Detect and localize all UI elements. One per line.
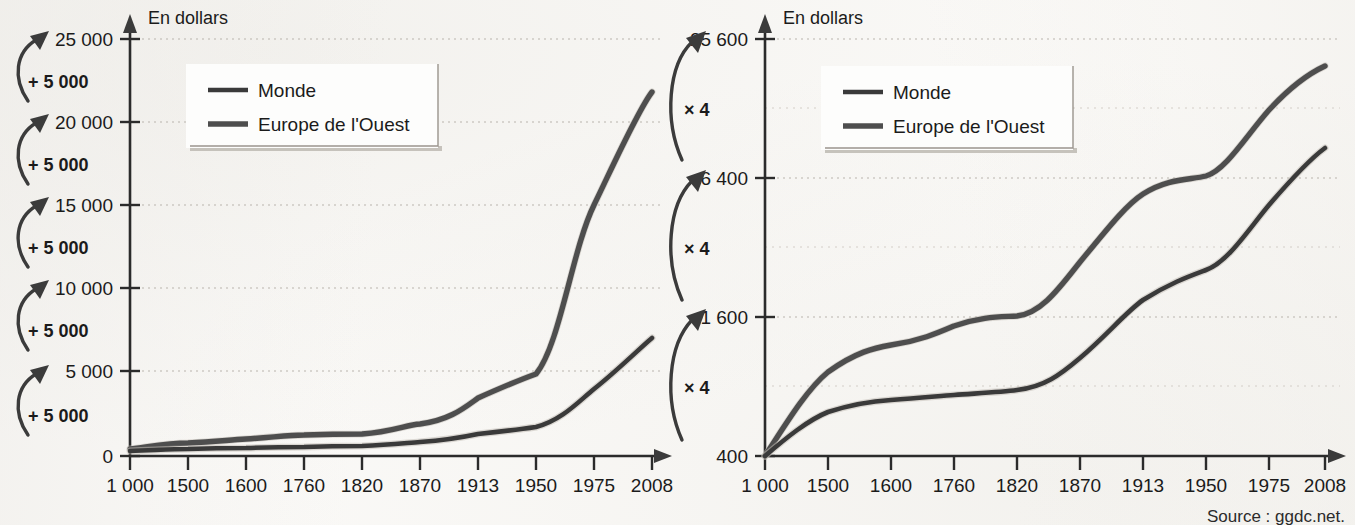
xtick-label-1000: 1 000 [741, 475, 789, 496]
legend-log[interactable]: Monde Europe de l'Ouest [821, 66, 1077, 153]
xtick-label-1870: 1870 [399, 475, 441, 496]
series-monde-linear [130, 338, 652, 451]
chart-panel-log: 25 600 6 400 1 600 400 En dollars × 4 × … [660, 0, 1355, 525]
ytick-label-400: 400 [716, 446, 748, 467]
y-unit-label-linear: En dollars [148, 8, 228, 28]
xtick-label-1950: 1950 [1185, 475, 1227, 496]
increment-label-4: + 5 000 [28, 321, 89, 341]
xtick-label-1600: 1600 [870, 475, 912, 496]
increment-label-2: + 5 000 [28, 155, 89, 175]
xtick-label-1913: 1913 [1122, 475, 1164, 496]
xtick-label-1500: 1500 [167, 475, 209, 496]
xtick-label-1975: 1975 [1248, 475, 1290, 496]
xtick-label-1760: 1760 [283, 475, 325, 496]
ytick-label-25000: 25 000 [55, 29, 113, 50]
legend-label-monde: Monde [893, 82, 951, 103]
x-ticks-log [765, 456, 1325, 470]
source-note: Source : ggdc.net. [1207, 507, 1345, 525]
xtick-label-1870: 1870 [1059, 475, 1101, 496]
multiplier-arrow-3 [671, 309, 706, 440]
xtick-label-1975: 1975 [573, 475, 615, 496]
ytick-label-6400: 6 400 [700, 168, 748, 189]
xtick-label-1600: 1600 [225, 475, 267, 496]
multiplier-arrow-2 [671, 170, 706, 300]
y-axis-linear [123, 14, 137, 456]
linear-chart-svg: 25 000 20 000 15 000 10 000 5 000 0 En d… [0, 0, 690, 525]
increment-label-3: + 5 000 [28, 238, 89, 258]
ytick-label-0: 0 [102, 446, 113, 467]
xtick-label-1913: 1913 [457, 475, 499, 496]
xtick-label-2008: 2008 [1304, 475, 1346, 496]
ytick-label-10000: 10 000 [55, 278, 113, 299]
y-axis-log [758, 14, 772, 456]
ytick-label-5000: 5 000 [65, 361, 113, 382]
increment-label-1: + 5 000 [28, 72, 89, 92]
xtick-label-1000: 1 000 [106, 475, 154, 496]
xtick-label-1760: 1760 [933, 475, 975, 496]
x-ticks-linear [130, 456, 652, 470]
chart-panel-linear: 25 000 20 000 15 000 10 000 5 000 0 En d… [0, 0, 690, 525]
legend-label-monde: Monde [258, 80, 316, 101]
xtick-label-1500: 1500 [807, 475, 849, 496]
y-unit-label-log: En dollars [783, 8, 863, 28]
xtick-label-1820: 1820 [341, 475, 383, 496]
legend-label-europe: Europe de l'Ouest [893, 116, 1045, 137]
multiplier-label-1: × 4 [684, 100, 710, 120]
multiplier-arrow-1 [671, 31, 706, 160]
ytick-label-1600: 1 600 [700, 307, 748, 328]
multiplier-label-2: × 4 [684, 239, 710, 259]
xtick-label-1950: 1950 [515, 475, 557, 496]
xtick-label-1820: 1820 [996, 475, 1038, 496]
multiplier-label-3: × 4 [684, 378, 710, 398]
ytick-label-15000: 15 000 [55, 195, 113, 216]
legend-linear[interactable]: Monde Europe de l'Ouest [186, 64, 442, 151]
legend-label-europe: Europe de l'Ouest [258, 114, 410, 135]
increment-label-5: + 5 000 [28, 406, 89, 426]
log-chart-svg: 25 600 6 400 1 600 400 En dollars × 4 × … [660, 0, 1355, 525]
ytick-label-20000: 20 000 [55, 112, 113, 133]
x-axis-log [765, 449, 1346, 463]
